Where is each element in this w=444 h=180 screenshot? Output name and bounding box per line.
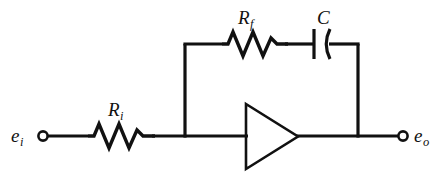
input-resistor-label: Ri xyxy=(108,100,123,119)
circuit-diagram: ei eo Ri Rf C xyxy=(0,0,444,180)
circuit-schematic-svg xyxy=(0,0,444,180)
feedback-resistor-symbol xyxy=(222,32,288,56)
capacitor-base: C xyxy=(317,7,330,28)
output-signal-base: e xyxy=(414,125,422,146)
feedback-resistor-label: Rf xyxy=(238,8,253,27)
input-terminal-circle xyxy=(38,131,47,140)
input-resistor-symbol xyxy=(88,124,155,148)
output-signal-label: eo xyxy=(414,126,429,145)
output-terminal-circle xyxy=(398,131,407,140)
input-signal-subscript: i xyxy=(20,135,23,149)
input-resistor-subscript: i xyxy=(120,109,123,123)
input-resistor-base: R xyxy=(108,99,120,120)
feedback-resistor-base: R xyxy=(238,7,250,28)
capacitor-label: C xyxy=(317,8,330,27)
feedback-resistor-subscript: f xyxy=(250,17,253,31)
input-signal-label: ei xyxy=(11,126,23,145)
input-signal-base: e xyxy=(11,125,19,146)
amplifier-triangle-symbol xyxy=(246,104,298,169)
output-signal-subscript: o xyxy=(423,135,429,149)
